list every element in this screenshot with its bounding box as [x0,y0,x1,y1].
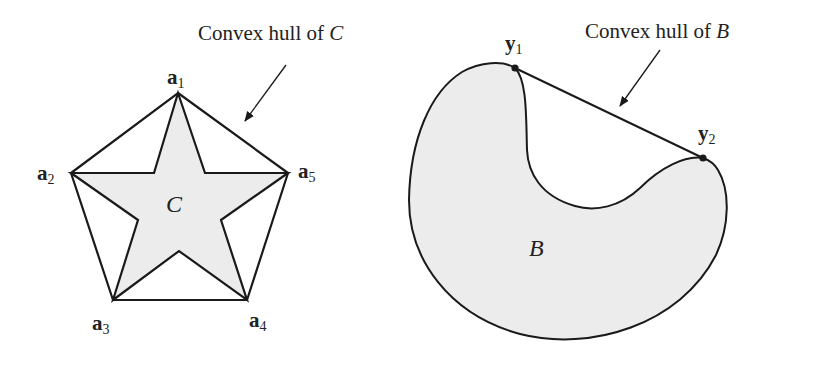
vertex-label-a3: a3 [92,311,110,337]
vertex-label-a4: a4 [249,308,267,334]
vertex-label-a5: a5 [298,159,316,185]
vertex-label-a2: a2 [37,161,55,187]
arrow-hull-c [245,65,286,121]
vertex-label-a1: a1 [167,65,185,91]
annotation-hull-b: Convex hull of B [585,19,729,43]
left-figure: Convex hull of C C a1 a2 a3 a4 a5 [37,21,344,337]
set-label-b: B [529,235,544,261]
point-label-y2: y2 [698,121,716,147]
arrow-hull-b [620,50,660,106]
point-y1 [511,64,518,71]
annotation-hull-c: Convex hull of C [198,21,344,45]
nonconvex-set-b [409,63,727,339]
right-figure: Convex hull of B B y1 y2 [409,19,729,339]
point-y2 [699,154,706,161]
convex-hull-diagram: Convex hull of C C a1 a2 a3 a4 a5 Convex… [0,0,815,366]
hull-segment-y1-y2 [515,68,703,158]
point-label-y1: y1 [505,31,523,57]
set-label-c: C [166,191,183,217]
